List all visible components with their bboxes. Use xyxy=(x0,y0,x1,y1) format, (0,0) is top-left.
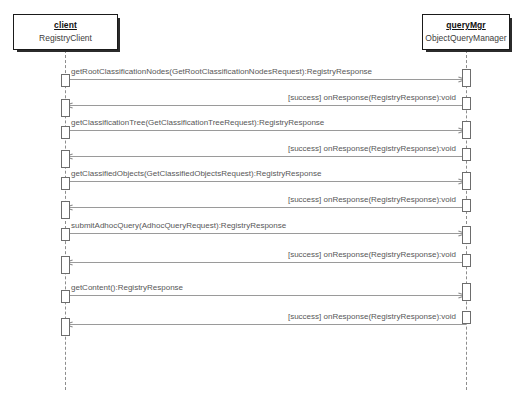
activation-bar-client xyxy=(61,150,70,168)
activation-bar-client xyxy=(61,201,70,219)
activation-bar-querymgr xyxy=(462,97,471,110)
message-line xyxy=(65,207,466,208)
message-line xyxy=(65,295,466,296)
activation-bar-querymgr xyxy=(462,283,471,301)
activation-bar-client xyxy=(61,74,70,87)
message-line xyxy=(65,233,466,234)
activation-bar-client xyxy=(61,99,70,117)
activation-bar-querymgr xyxy=(462,199,471,212)
participant-querymgr[interactable]: queryMgr ObjectQueryManager xyxy=(422,14,510,50)
activation-bar-querymgr xyxy=(462,254,471,267)
activation-bar-querymgr xyxy=(462,226,471,244)
message-label: getClassifiedObjects(GetClassifiedObject… xyxy=(71,169,321,179)
message-label: [success] onResponse(RegistryResponse):v… xyxy=(288,312,456,322)
message-label: getRootClassificationNodes(GetRootClassi… xyxy=(71,67,372,77)
activation-bar-client xyxy=(61,256,70,274)
participant-querymgr-name: queryMgr xyxy=(423,20,509,31)
participant-client[interactable]: client RegistryClient xyxy=(13,14,118,50)
message-label: [success] onResponse(RegistryResponse):v… xyxy=(288,250,456,260)
activation-bar-querymgr xyxy=(462,121,471,139)
message-label: [success] onResponse(RegistryResponse):v… xyxy=(288,93,456,103)
message-line xyxy=(65,324,466,325)
message-label: submitAdhocQuery(AdhocQueryRequest):Regi… xyxy=(71,221,286,231)
activation-bar-querymgr xyxy=(462,69,471,87)
activation-bar-querymgr xyxy=(462,311,471,324)
activation-bar-client xyxy=(61,318,70,336)
activation-bar-client xyxy=(61,290,70,303)
message-line xyxy=(65,79,466,80)
message-line xyxy=(65,130,466,131)
participant-client-name: client xyxy=(14,20,117,31)
message-line xyxy=(65,156,466,157)
sequence-diagram-canvas: client RegistryClient queryMgr ObjectQue… xyxy=(0,0,512,409)
activation-bar-client xyxy=(61,177,70,190)
participant-client-class: RegistryClient xyxy=(14,33,117,44)
participant-querymgr-class: ObjectQueryManager xyxy=(423,33,509,44)
message-label: [success] onResponse(RegistryResponse):v… xyxy=(288,144,456,154)
message-line xyxy=(65,105,466,106)
activation-bar-client xyxy=(61,228,70,241)
message-line xyxy=(65,262,466,263)
message-line xyxy=(65,181,466,182)
message-label: getClassificationTree(GetClassificationT… xyxy=(71,118,324,128)
activation-bar-client xyxy=(61,126,70,139)
message-label: [success] onResponse(RegistryResponse):v… xyxy=(288,195,456,205)
activation-bar-querymgr xyxy=(462,148,471,161)
activation-bar-querymgr xyxy=(462,172,471,190)
message-label: getContent():RegistryResponse xyxy=(71,283,183,293)
